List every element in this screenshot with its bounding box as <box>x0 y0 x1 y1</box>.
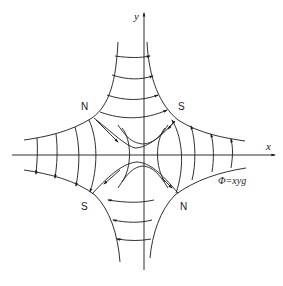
boundary-bottom-left <box>24 170 120 262</box>
boundary-top-right <box>147 42 245 141</box>
flow-diagram: y x N S S N Φ=xyg <box>0 0 283 286</box>
pole-label-bottom-right: N <box>180 201 187 212</box>
boundary-top-left <box>24 42 118 140</box>
pole-label-top-right: S <box>178 101 185 112</box>
pole-label-bottom-left: S <box>81 201 88 212</box>
equipotential-label: Φ=xyg <box>218 175 246 186</box>
y-axis-label: y <box>133 10 139 22</box>
x-axis-label: x <box>265 140 271 152</box>
pole-label-top-left: N <box>81 101 88 112</box>
